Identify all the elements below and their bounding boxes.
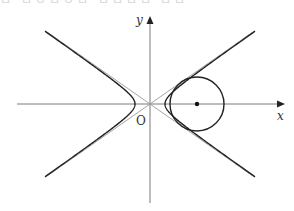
- y-axis-label: y: [135, 13, 143, 27]
- x-axis-label: x: [277, 109, 284, 123]
- origin-label: O: [136, 114, 146, 128]
- hyperbola-circle-figure: y x O: [0, 0, 294, 211]
- x-axis-arrow-icon: [277, 101, 285, 108]
- diagram-canvas: ㅁ ㅁㅇㅁㅇㅁ ㅁㅁㅁㅁ ㅁㅁ y x O: [0, 0, 294, 211]
- circle-center-point: [195, 102, 199, 106]
- y-axis-arrow-icon: [147, 16, 154, 24]
